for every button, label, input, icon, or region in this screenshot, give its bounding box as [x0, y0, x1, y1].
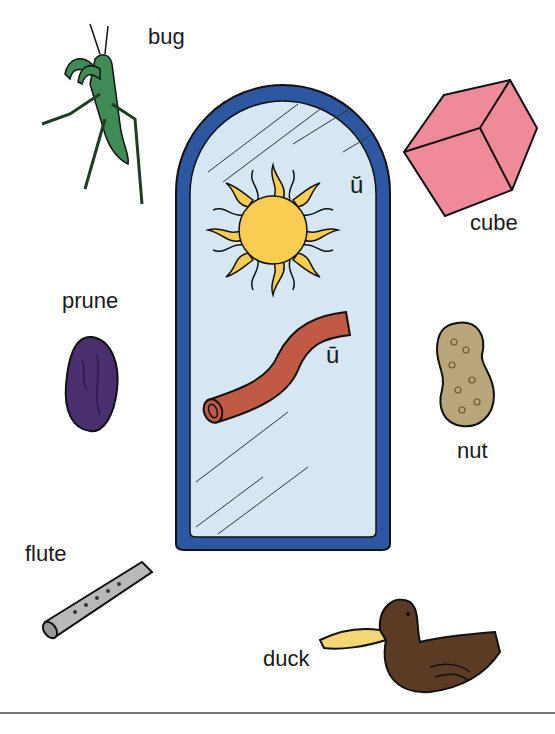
long-u-mark: ū	[326, 343, 339, 367]
cube-picture	[402, 80, 542, 220]
short-u-mark: ŭ	[350, 173, 363, 197]
item-label-nut: nut	[457, 440, 488, 462]
item-label-cube: cube	[470, 212, 518, 234]
flute-picture	[40, 560, 155, 642]
sun-picture	[198, 155, 348, 305]
nut-picture	[432, 320, 502, 430]
item-label-bug: bug	[148, 26, 185, 48]
item-label-duck: duck	[263, 648, 309, 670]
bottom-rule	[0, 712, 555, 714]
duck-picture	[320, 592, 505, 697]
prune-picture	[62, 335, 122, 435]
bug-picture	[30, 24, 160, 209]
item-label-prune: prune	[62, 290, 118, 312]
